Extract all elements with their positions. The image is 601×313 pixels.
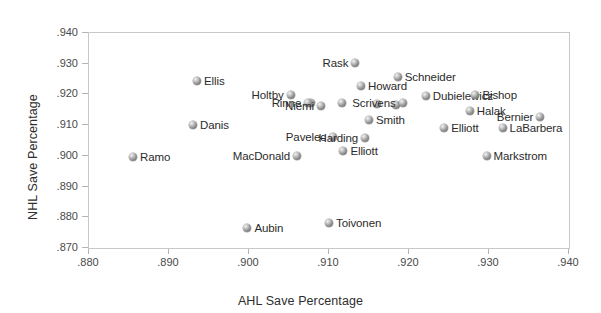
data-point[interactable]: [317, 102, 325, 110]
y-tick-label: .920: [38, 87, 78, 99]
data-point-label: Ramo: [140, 151, 170, 163]
data-point[interactable]: [365, 116, 373, 124]
data-point[interactable]: [189, 121, 197, 129]
data-point[interactable]: [293, 152, 301, 160]
x-tick-label: .920: [386, 256, 430, 268]
data-point-label: Danis: [200, 119, 229, 131]
data-point[interactable]: [351, 59, 359, 67]
y-tick-label: .870: [38, 241, 78, 253]
data-point[interactable]: [440, 124, 448, 132]
plot-area: RamoEllisDanisAubinToivonenHoltbyRinneNi…: [88, 32, 570, 249]
data-point-label: Ellis: [204, 75, 225, 87]
data-point[interactable]: [394, 73, 402, 81]
x-axis-title: AHL Save Percentage: [0, 294, 601, 308]
data-point[interactable]: [466, 107, 474, 115]
x-tick-label: .880: [66, 256, 110, 268]
data-point-label: Harding: [318, 132, 358, 144]
data-point-label: Bishop: [482, 89, 517, 101]
data-point-label: Toivonen: [336, 217, 381, 229]
y-tick-label: .900: [38, 149, 78, 161]
data-point[interactable]: [325, 219, 333, 227]
x-tick-label: .940: [546, 256, 590, 268]
scatter-chart: NHL Save Percentage AHL Save Percentage …: [0, 0, 601, 313]
data-point-label: Smith: [376, 114, 405, 126]
y-tick-label: .880: [38, 210, 78, 222]
data-point[interactable]: [483, 152, 491, 160]
data-point[interactable]: [361, 134, 369, 142]
y-tick-label: .910: [38, 118, 78, 130]
data-point[interactable]: [129, 153, 137, 161]
y-tick-label: .890: [38, 180, 78, 192]
data-point-label: Rask: [323, 57, 349, 69]
x-tick-label: .910: [306, 256, 350, 268]
data-point[interactable]: [193, 77, 201, 85]
data-point-label: Elliott: [350, 145, 377, 157]
data-point-label: Bernier: [497, 111, 533, 123]
data-point[interactable]: [399, 99, 407, 107]
data-point[interactable]: [338, 99, 346, 107]
data-point[interactable]: [357, 82, 365, 90]
data-point[interactable]: [339, 147, 347, 155]
x-tick-label: .890: [146, 256, 190, 268]
x-tick-label: .900: [226, 256, 270, 268]
data-point-label: LaBarbera: [510, 122, 563, 134]
data-point[interactable]: [499, 124, 507, 132]
data-point-label: Markstrom: [494, 150, 547, 162]
data-point-label: MacDonald: [233, 150, 290, 162]
data-point-label: Schneider: [405, 71, 456, 83]
y-tick-label: .940: [38, 26, 78, 38]
data-point-label: Howard: [368, 80, 407, 92]
y-tick-label: .930: [38, 57, 78, 69]
data-point-label: Aubin: [254, 222, 283, 234]
data-point-label: Elliott: [451, 122, 478, 134]
data-point[interactable]: [243, 224, 251, 232]
data-point[interactable]: [422, 92, 430, 100]
data-point-label: Niemi: [285, 100, 314, 112]
data-point-label: Scrivens: [352, 97, 395, 109]
data-point[interactable]: [536, 113, 544, 121]
x-tick-label: .930: [466, 256, 510, 268]
